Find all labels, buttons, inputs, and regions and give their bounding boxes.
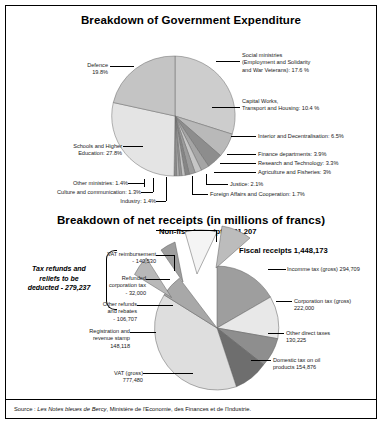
label-registration-revenue-stamp: Registration and revenue stamp 148,118 (68, 328, 130, 350)
leader-other-refunds (137, 305, 173, 306)
leader-capital-works (212, 107, 240, 108)
leader-industry (156, 201, 166, 202)
label-defence: Defence 19.8% (50, 62, 108, 77)
leader-domestic-oil-tax (251, 360, 271, 361)
leader-nonfiscal (156, 230, 216, 231)
label-refunded-corporation-tax: Refunded corporation tax - 32,000 (86, 275, 146, 297)
label-other-direct-taxes: Other direct taxes 130,225 (286, 330, 377, 345)
label-vat-gross: VAT (gross) 777,480 (88, 370, 143, 385)
leader-industry-tick (166, 177, 167, 201)
label-vat-reimbursement: VAT reimbursement - 140,530 (76, 251, 156, 266)
label-other-refunds-rebates: Other refunds and rebates - 106,707 (81, 301, 137, 323)
leader-justice (206, 184, 228, 185)
figure-panel: Breakdown of Government Expenditure (5, 5, 377, 419)
label-research-technology: Research and Technology: 3.3% (258, 160, 377, 167)
leader-vat-reimbursement-tick (174, 255, 175, 271)
leader-culture-tick (153, 178, 154, 192)
leader-vat-reimbursement (156, 255, 174, 256)
chart-1-pie (110, 38, 240, 198)
leader-corporation-tax (276, 301, 292, 302)
leader-other-ministries (128, 183, 144, 184)
label-agriculture-fisheries: Agriculture and Fisheries: 3% (258, 169, 377, 176)
leader-other-direct-taxes (268, 333, 284, 334)
leader-social-ministries (216, 61, 240, 62)
leader-registration-stamp (130, 332, 156, 333)
leader-other-ministries-tick (144, 179, 145, 187)
label-foreign-affairs: Foreign Affairs and Cooperation: 1.7% (210, 191, 338, 198)
source-prefix: Source : (14, 406, 37, 412)
label-industry: Industry: 1.4% (56, 198, 156, 205)
leader-foreign-affairs (192, 194, 208, 195)
label-social-ministries: Social ministries (Employment and Solida… (242, 52, 374, 74)
leader-culture (141, 192, 153, 193)
leader-research (220, 163, 256, 164)
label-interior-decentralisation: Interior and Decentralisation: 6.5% (258, 133, 377, 140)
label-justice: Justice: 2.1% (230, 181, 300, 188)
source-rest: , Ministère de l'Economie, des Finances … (106, 406, 251, 412)
chart-2-pie (139, 238, 289, 403)
pie-1-slices (112, 56, 235, 176)
chart-1-title: Breakdown of Government Expenditure (6, 14, 376, 26)
leader-finance (227, 154, 256, 155)
leader-foreign-affairs-tick (192, 176, 193, 194)
label-domestic-tax-oil-products: Domestic tax on oil products 154,876 (273, 357, 373, 372)
pie-2-slices (155, 266, 279, 390)
label-finance-departments: Finance departments: 3.9% (258, 151, 377, 158)
leader-schools (123, 146, 143, 147)
label-income-tax-gross: Incomme tax (gross) 294,709 (287, 266, 377, 273)
leader-agriculture (214, 172, 256, 173)
label-other-ministries: Other ministries: 1.4% (52, 180, 128, 187)
source-line: Source : Les Notes bleues de Bercy, Mini… (14, 406, 251, 412)
label-schools-higher-education: Schools and Higher Education: 27.8% (46, 143, 122, 158)
label-capital-works: Capital Works, Transport and Housing: 10… (242, 98, 374, 113)
leader-interior (231, 136, 256, 137)
leader-nonfiscal-tick (216, 230, 217, 242)
leader-justice-tick (206, 174, 207, 184)
leader-vat-gross (143, 373, 193, 374)
chart-2-title: Breakdown of net receipts (in millions o… (6, 214, 376, 226)
leader-defence (110, 66, 134, 67)
footer-divider (6, 399, 376, 400)
label-culture-communication: Culture and communication: 1.3% (38, 189, 141, 196)
leader-refunded-corporation-tax (146, 279, 170, 280)
leader-income-tax (268, 269, 286, 270)
label-corporation-tax-gross: Corporation tax (gross) 222,000 (294, 298, 377, 313)
source-publication: Les Notes bleues de Bercy (37, 406, 106, 412)
